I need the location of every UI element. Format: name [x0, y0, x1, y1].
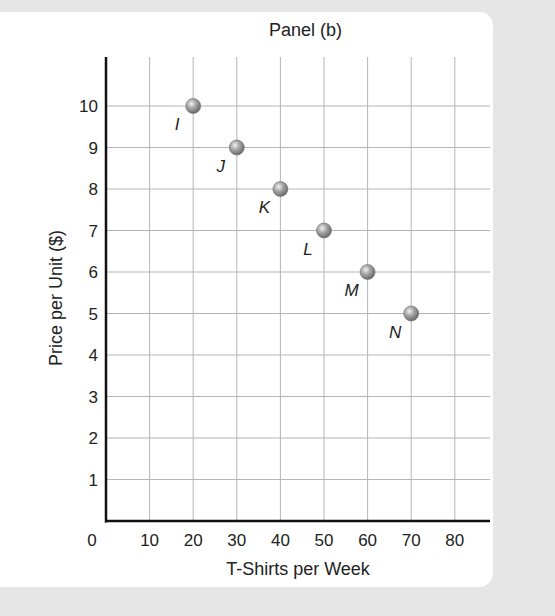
- x-tick-label: 30: [227, 531, 246, 550]
- data-point-i: [186, 99, 201, 114]
- axes: [105, 57, 490, 523]
- data-point-j: [229, 140, 244, 155]
- y-tick-label: 1: [89, 471, 98, 490]
- y-tick-label: 9: [89, 139, 98, 158]
- point-label: K: [259, 198, 271, 217]
- point-label: M: [345, 281, 360, 300]
- y-tick-label: 6: [89, 263, 98, 282]
- y-tick-label: 3: [89, 388, 98, 407]
- point-label: N: [389, 323, 402, 342]
- grid-lines: [106, 57, 490, 521]
- point-label: I: [175, 115, 180, 134]
- x-tick-label: 0: [87, 531, 96, 550]
- scatter-plot: 0102030405060708012345678910 IJKLMN T-Sh…: [0, 0, 555, 616]
- data-points: IJKLMN: [175, 99, 419, 342]
- y-axis-label: Price per Unit ($): [46, 230, 66, 366]
- x-tick-label: 10: [140, 531, 159, 550]
- data-point-l: [317, 223, 332, 238]
- data-point-n: [404, 306, 419, 321]
- y-tick-label: 5: [89, 305, 98, 324]
- point-label: J: [216, 157, 226, 176]
- x-tick-label: 50: [315, 531, 334, 550]
- tick-labels: 0102030405060708012345678910: [79, 97, 464, 550]
- y-tick-label: 7: [89, 222, 98, 241]
- y-tick-label: 4: [89, 346, 98, 365]
- x-tick-label: 60: [358, 531, 377, 550]
- data-point-k: [273, 182, 288, 197]
- y-tick-label: 10: [79, 97, 98, 116]
- point-label: L: [303, 240, 312, 259]
- data-point-m: [360, 265, 375, 280]
- x-tick-label: 40: [271, 531, 290, 550]
- y-tick-label: 8: [89, 180, 98, 199]
- x-tick-label: 70: [402, 531, 421, 550]
- x-tick-label: 80: [445, 531, 464, 550]
- x-tick-label: 20: [184, 531, 203, 550]
- y-tick-label: 2: [89, 429, 98, 448]
- x-axis-label: T-Shirts per Week: [226, 559, 371, 579]
